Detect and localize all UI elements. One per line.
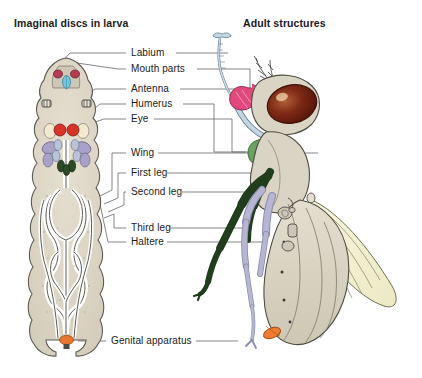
label-haltere: Haltere bbox=[131, 236, 164, 247]
adult-labium bbox=[213, 33, 234, 100]
label-wing: Wing bbox=[131, 147, 154, 158]
label-genital-apparatus: Genital apparatus bbox=[111, 335, 192, 346]
label-mouth-parts: Mouth parts bbox=[131, 63, 185, 74]
label-antenna: Antenna bbox=[131, 83, 169, 94]
label-labium: Labium bbox=[131, 47, 164, 58]
label-third-leg: Third leg bbox=[131, 222, 171, 233]
label-eye: Eye bbox=[131, 113, 149, 124]
adult-fly-illustration bbox=[0, 0, 422, 378]
label-first-leg: First leg bbox=[131, 167, 167, 178]
figure-canvas: Imaginal discs in larva Adult structures bbox=[0, 0, 422, 378]
label-second-leg: Second leg bbox=[131, 186, 182, 197]
label-humerus: Humerus bbox=[131, 98, 172, 109]
